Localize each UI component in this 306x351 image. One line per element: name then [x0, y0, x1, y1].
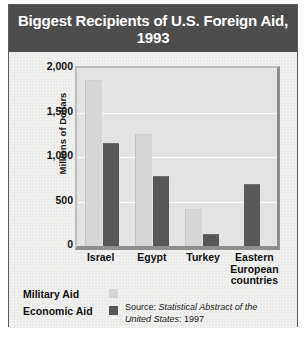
chart-card: Biggest Recipients of U.S. Foreign Aid, … [8, 4, 298, 327]
clipped-footer-text [0, 337, 306, 351]
x-category-label: EasternEuropeancountries [229, 252, 280, 287]
x-category-label: Turkey [178, 252, 229, 287]
x-category-line: Turkey [178, 252, 229, 264]
bar-military-aid [85, 80, 102, 246]
y-tick-label: 1,000 [25, 149, 73, 161]
bar-economic-aid [103, 143, 119, 246]
chart-title-band: Biggest Recipients of U.S. Foreign Aid, … [9, 5, 297, 52]
y-tick-label: 1,500 [25, 105, 73, 117]
x-category-label: Israel [75, 252, 126, 287]
x-category-label: Egypt [126, 252, 177, 287]
bar-groups [77, 68, 277, 246]
source-note: Source: Statistical Abstract of the Unit… [125, 302, 285, 325]
x-category-line: Israel [75, 252, 126, 264]
x-category-line: Eastern [229, 252, 280, 264]
y-axis-ticks: 2,0001,5001,0005000 [17, 66, 73, 244]
source-suffix: : 1997 [179, 314, 204, 324]
bar-military-aid [185, 209, 202, 246]
bar-group [77, 68, 127, 246]
legend-item-economic-aid: Economic Aid [23, 302, 118, 319]
x-category-line: Egypt [126, 252, 177, 264]
bar-economic-aid [244, 184, 260, 246]
chart-legend: Military Aid Economic Aid [23, 285, 118, 319]
chart-title: Biggest Recipients of U.S. Foreign Aid, … [9, 12, 297, 46]
bar-economic-aid [203, 234, 219, 246]
legend-swatch-military-aid [109, 289, 118, 298]
plot-area [75, 66, 280, 250]
bar-group [227, 68, 277, 246]
bar-military-aid [135, 134, 152, 246]
legend-swatch-economic-aid [109, 306, 118, 315]
y-tick-label: 500 [25, 194, 73, 206]
y-tick-label: 0 [25, 238, 73, 250]
x-axis-categories: IsraelEgyptTurkeyEasternEuropeancountrie… [75, 252, 280, 287]
source-prefix: Source: [125, 302, 159, 312]
legend-label-military-aid: Military Aid [23, 288, 103, 300]
x-category-line: countries [229, 275, 280, 287]
legend-item-military-aid: Military Aid [23, 285, 118, 302]
bar-economic-aid [153, 176, 169, 246]
y-tick-label: 2,000 [25, 60, 73, 72]
bar-group [177, 68, 227, 246]
plot-inner [77, 68, 277, 246]
legend-label-economic-aid: Economic Aid [23, 305, 103, 317]
chart-body: Millions of Dollars 2,0001,5001,0005000 … [9, 52, 297, 328]
bar-group [127, 68, 177, 246]
